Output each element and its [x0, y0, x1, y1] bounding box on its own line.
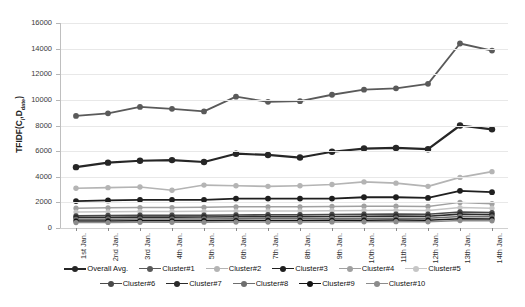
legend-swatch-icon [366, 280, 388, 288]
gridline [60, 177, 508, 178]
data-point [393, 194, 399, 200]
data-point [489, 189, 495, 195]
legend-swatch-icon [206, 265, 228, 273]
data-point [297, 154, 303, 160]
legend-item-cluster-10[interactable]: Cluster#10 [366, 279, 426, 288]
data-point [361, 194, 367, 200]
x-axis-tick-label: 13th Jan. [463, 233, 472, 263]
x-axis-tick-mark [76, 228, 77, 231]
data-point [169, 220, 174, 225]
legend-item-cluster-5[interactable]: Cluster#5 [405, 264, 461, 273]
y-axis-tick-label: 8000 [0, 122, 52, 130]
gridline [60, 100, 508, 101]
legend-item-cluster-1[interactable]: Cluster#1 [139, 264, 195, 273]
data-point [137, 220, 142, 225]
data-point [265, 219, 270, 224]
legend-swatch-icon [272, 265, 294, 273]
data-point [361, 87, 367, 93]
x-axis-tick-label: 10th Jan. [367, 233, 376, 263]
data-point [297, 219, 302, 224]
x-axis-tick-mark [428, 228, 429, 231]
x-axis-tick-label: 9th Jan. [335, 233, 344, 259]
x-axis-tick-mark [268, 228, 269, 231]
x-axis-tick-label: 2nd Jan. [111, 233, 120, 261]
gridline [60, 126, 508, 127]
x-axis-tick-mark [332, 228, 333, 231]
legend-swatch-icon [405, 265, 427, 273]
x-axis-tick-mark [108, 228, 109, 231]
data-point [201, 109, 207, 115]
series-cluster-2 [73, 169, 494, 193]
data-point [137, 158, 143, 164]
chart-container: TFIDF(Ci,Ddate) 020004000600080001000012… [0, 0, 525, 307]
legend-item-cluster-6[interactable]: Cluster#6 [100, 279, 156, 288]
legend-item-cluster-3[interactable]: Cluster#3 [272, 264, 328, 273]
legend-label: Cluster#6 [123, 279, 156, 288]
legend-label: Cluster#2 [229, 264, 262, 273]
legend-item-cluster-4[interactable]: Cluster#4 [339, 264, 395, 273]
data-point [425, 195, 431, 201]
data-point [457, 218, 462, 223]
y-axis-tick-label: 0 [0, 224, 52, 232]
y-axis-tick-label: 16000 [0, 19, 52, 27]
x-axis-tick-mark [492, 228, 493, 231]
data-point [329, 219, 334, 224]
data-point [105, 185, 110, 190]
x-axis-tick-label: 6th Jan. [239, 233, 248, 259]
legend-item-cluster-2[interactable]: Cluster#2 [206, 264, 262, 273]
legend-label: Cluster#5 [428, 264, 461, 273]
data-point [73, 186, 78, 191]
data-point [201, 220, 206, 225]
x-axis-tick-mark [172, 228, 173, 231]
legend-label: Cluster#10 [389, 279, 426, 288]
data-point [233, 94, 239, 100]
data-point [73, 164, 79, 170]
data-point [201, 182, 206, 187]
data-point [137, 104, 143, 110]
x-axis-tick-label: 8th Jan. [303, 233, 312, 259]
data-point [137, 184, 142, 189]
legend-swatch-icon [166, 280, 188, 288]
data-point [105, 159, 111, 165]
y-axis-tick-label: 12000 [0, 70, 52, 78]
series-cluster-1 [73, 41, 495, 119]
legend-label: Cluster#9 [322, 279, 355, 288]
legend-item-overall-avg[interactable]: Overall Avg. [64, 264, 128, 273]
y-axis-tick-label: 10000 [0, 96, 52, 104]
data-point [265, 196, 271, 202]
legend-label: Cluster#3 [295, 264, 328, 273]
data-point [297, 183, 302, 188]
data-point [425, 219, 430, 224]
data-point [265, 184, 270, 189]
x-axis-tick-mark [204, 228, 205, 231]
data-point [265, 152, 271, 158]
x-axis-tick-label: 7th Jan. [271, 233, 280, 259]
data-point [393, 85, 399, 91]
data-point [425, 81, 431, 87]
x-axis-tick-label: 3rd Jan. [143, 233, 152, 260]
data-point [169, 157, 175, 163]
data-point [329, 182, 334, 187]
x-axis-tick-mark [364, 228, 365, 231]
legend-swatch-icon [339, 265, 361, 273]
legend-item-cluster-9[interactable]: Cluster#9 [299, 279, 355, 288]
legend-item-cluster-8[interactable]: Cluster#8 [233, 279, 289, 288]
legend-swatch-icon [139, 265, 161, 273]
data-point [105, 220, 110, 225]
x-axis-tick-label: 4th Jan. [175, 233, 184, 259]
data-point [169, 106, 175, 112]
legend-swatch-icon [100, 280, 122, 288]
x-axis-tick-mark [300, 228, 301, 231]
y-axis-tick-label: 6000 [0, 147, 52, 155]
legend-label: Cluster#1 [162, 264, 195, 273]
data-point [105, 110, 111, 116]
x-axis-tick-mark [396, 228, 397, 231]
y-axis-tick-label: 2000 [0, 198, 52, 206]
y-axis-tick-label: 4000 [0, 173, 52, 181]
data-point [393, 219, 398, 224]
legend-item-cluster-7[interactable]: Cluster#7 [166, 279, 222, 288]
y-axis-line [60, 23, 61, 229]
data-point [489, 218, 494, 223]
x-axis-tick-label: 14th Jan. [495, 233, 504, 263]
data-point [201, 159, 207, 165]
